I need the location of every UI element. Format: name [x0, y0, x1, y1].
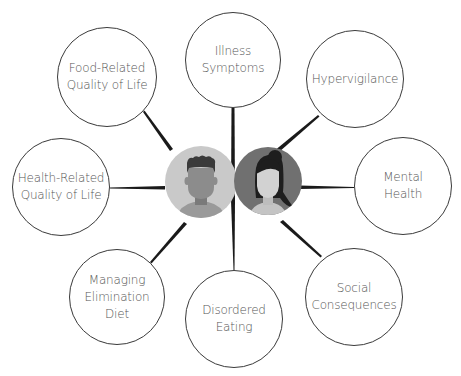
- female-avatar-icon: [234, 147, 302, 218]
- hub-spoke-diagram: Food-Related Quality of Life Illness Sym…: [0, 0, 461, 376]
- male-avatar-icon: [165, 146, 237, 218]
- center-avatars: [0, 0, 461, 376]
